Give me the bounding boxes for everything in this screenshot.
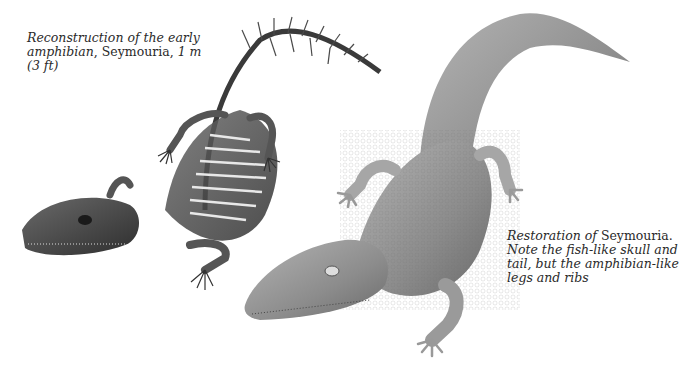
caption-genus: Seymouria. bbox=[601, 228, 673, 243]
caption-genus: , Seymouria, bbox=[94, 44, 178, 59]
skeleton-caption: Reconstruction of the early amphibian, S… bbox=[27, 31, 207, 73]
caption-note: Note the fish-like skull and tail, but t… bbox=[507, 242, 679, 285]
restoration-illustration bbox=[245, 13, 630, 356]
restoration-caption: Restoration of Seymouria. Note the fish-… bbox=[507, 229, 692, 285]
caption-italic: Restoration of bbox=[507, 228, 601, 243]
